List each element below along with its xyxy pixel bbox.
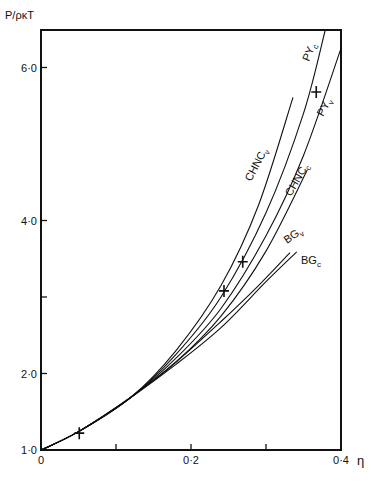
curve-pyv <box>41 48 341 450</box>
x-tick-label: 0·4 <box>333 454 349 466</box>
y-axis-label: P/ρκT <box>5 9 34 21</box>
curve-chncc <box>41 170 307 450</box>
curve-label-bgc: BGc <box>301 254 321 269</box>
data-markers <box>74 86 321 439</box>
x-tick-label: 0 <box>38 454 44 466</box>
curve-chncv <box>41 97 293 450</box>
equation-of-state-chart: 00·20·41·02·04·06·0 CHNCvPYcPYvCHNCcBGvB… <box>0 0 371 486</box>
x-tick-label: 0·2 <box>183 454 199 466</box>
curve-label-chncc: CHNCc <box>282 161 313 199</box>
y-tick-label: 1·0 <box>21 444 37 456</box>
curve-bgv <box>41 253 290 450</box>
curve-pyc <box>41 30 325 450</box>
x-axis-label: η <box>357 453 364 468</box>
cross-marker <box>311 86 321 98</box>
y-tick-label: 6·0 <box>21 62 37 74</box>
curve-label-bgv: BGv <box>281 224 306 248</box>
curve-bgc <box>41 252 297 450</box>
y-tick-label: 2·0 <box>21 368 37 380</box>
y-tick-label: 4·0 <box>21 215 37 227</box>
axis-ticks: 00·20·41·02·04·06·0 <box>21 62 349 467</box>
